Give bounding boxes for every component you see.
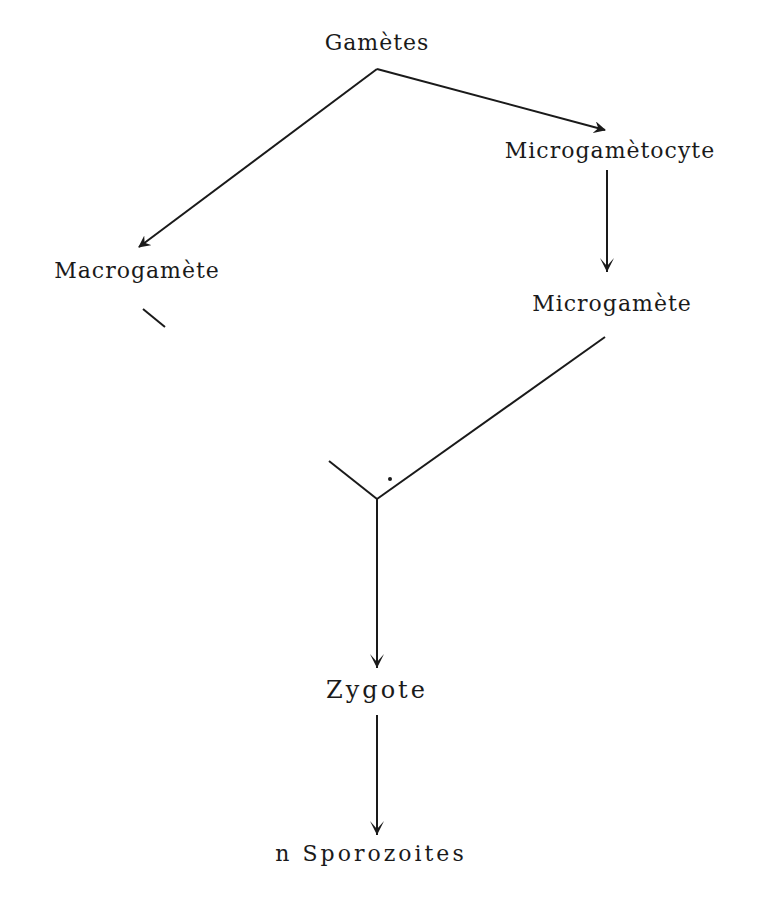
edge-merge-left-arm <box>329 461 377 499</box>
node-microgametocyte: Microgamètocyte <box>505 140 715 162</box>
edge-microgamete-merge <box>377 337 605 499</box>
node-sporozoites: n Sporozoites <box>275 843 466 865</box>
connector-lines <box>0 0 772 898</box>
node-macrogamete: Macrogamète <box>54 260 220 282</box>
edge-gametes-macrogamete <box>139 69 377 247</box>
edge-macrogamete-stub <box>143 309 165 327</box>
edge-gametes-microgametocyte <box>377 69 605 130</box>
node-gametes: Gamètes <box>325 32 430 54</box>
merge-dot <box>388 477 392 481</box>
life-cycle-diagram: Gamètes Microgamètocyte Macrogamète Micr… <box>0 0 772 898</box>
node-microgamete: Microgamète <box>532 293 692 315</box>
node-zygote: Zygote <box>326 678 428 702</box>
